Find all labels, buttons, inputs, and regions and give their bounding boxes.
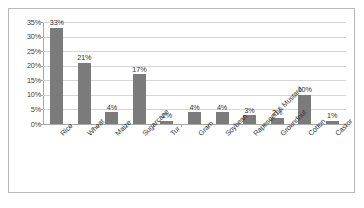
y-tick-mark xyxy=(40,124,43,125)
gridline xyxy=(43,37,346,38)
y-tick-mark xyxy=(40,95,43,96)
y-tick-label: 10% xyxy=(15,91,41,98)
y-tick-label: 35% xyxy=(15,19,41,26)
gridline xyxy=(43,51,346,52)
y-tick-label: 15% xyxy=(15,77,41,84)
y-tick-label: 25% xyxy=(15,48,41,55)
y-tick-mark xyxy=(40,80,43,81)
x-axis: RiceWheatMaizeSugarcaneTurGramSoybeanRap… xyxy=(43,132,353,202)
y-tick-mark xyxy=(40,109,43,110)
x-axis-line xyxy=(43,124,346,125)
y-tick-label: 30% xyxy=(15,33,41,40)
gridline xyxy=(43,22,346,23)
bar-value-label: 17% xyxy=(122,66,156,73)
bar xyxy=(105,112,118,124)
bar-value-label: 33% xyxy=(40,19,74,26)
bar xyxy=(50,28,63,124)
bar xyxy=(133,74,146,124)
y-tick-label: 5% xyxy=(15,106,41,113)
y-tick-mark xyxy=(40,51,43,52)
y-tick-label: 0% xyxy=(15,121,41,128)
x-tick-mark xyxy=(181,124,182,127)
bar xyxy=(216,112,229,124)
bar xyxy=(188,112,201,124)
y-tick-label: 20% xyxy=(15,62,41,69)
bar xyxy=(78,63,91,124)
y-tick-mark xyxy=(40,37,43,38)
bar-value-label: 21% xyxy=(67,54,101,61)
chart-frame: 35%30%25%20%15%10%5%0% 33%21%4%17%1%4%4%… xyxy=(8,8,355,193)
y-tick-mark xyxy=(40,66,43,67)
y-axis: 35%30%25%20%15%10%5%0% xyxy=(13,22,41,132)
bar-value-label: 4% xyxy=(95,104,129,111)
